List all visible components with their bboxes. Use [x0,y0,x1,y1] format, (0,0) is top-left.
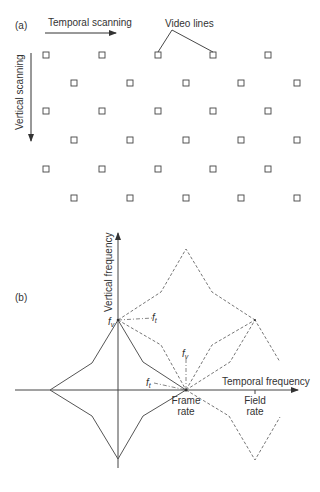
field-rate-label-1: Field [244,395,266,406]
video-line-sample [127,137,133,143]
video-line-sample [265,52,271,58]
video-line-sample [127,80,133,86]
panel-b: (b) Vertical frequency Temporal frequenc… [15,233,310,469]
ft-indicator-top [118,318,153,320]
vertical-frequency-label: Vertical frequency [103,233,114,313]
video-line-sample [210,166,216,172]
ft-label-top: ft [152,312,158,324]
video-line-sample [183,80,189,86]
vertical-scanning-label: Vertical scanning [14,54,25,130]
temporal-scanning-label: Temporal scanning [48,17,132,28]
video-line-sample [99,52,105,58]
video-line-sample [294,80,300,86]
panel-a-label: (a) [15,20,27,31]
video-line-sample [43,108,49,114]
video-line-sample [155,108,161,114]
video-line-sample [155,52,161,58]
figure: (a) Temporal scanning Video lines Vertic… [0,0,320,492]
video-line-sample [265,166,271,172]
video-line-sample [265,108,271,114]
repeat-spectra [118,249,280,460]
video-line-sample [71,195,77,201]
video-line-sample [210,52,216,58]
upper-repeat-spectrum [118,249,255,320]
panel-a: (a) Temporal scanning Video lines Vertic… [14,17,300,201]
video-line-sample [155,166,161,172]
video-line-sample [99,108,105,114]
video-line-sample [43,52,49,58]
video-line-sample [238,195,244,201]
video-line-sample [294,195,300,201]
video-line-sample [127,195,133,201]
repeat-point [254,319,256,321]
video-line-sample [183,195,189,201]
video-line-sample [71,80,77,86]
video-line-grid [43,52,300,201]
video-line-sample [99,166,105,172]
frame-rate-label-2: rate [177,406,195,417]
fv-label-bottom: fv [182,348,189,360]
video-line-sample [294,137,300,143]
video-line-sample [71,137,77,143]
diagonal-repeat-left [118,320,186,390]
fv-point [117,319,120,322]
video-line-sample [183,137,189,143]
video-lines-label: Video lines [165,18,214,29]
video-line-sample [43,166,49,172]
field-rate-label-2: rate [246,406,264,417]
frame-rate-label-1: Frame [172,395,201,406]
fv-label-top: fv [108,316,115,328]
frame-rate-point [185,389,188,392]
video-lines-pointer [158,30,213,52]
video-line-sample [210,108,216,114]
temporal-frequency-label: Temporal frequency [222,376,310,387]
panel-b-label: (b) [15,292,27,303]
video-line-sample [238,137,244,143]
video-line-sample [238,80,244,86]
frequency-indicators [118,318,186,390]
ft-label-bottom: ft [146,377,152,389]
